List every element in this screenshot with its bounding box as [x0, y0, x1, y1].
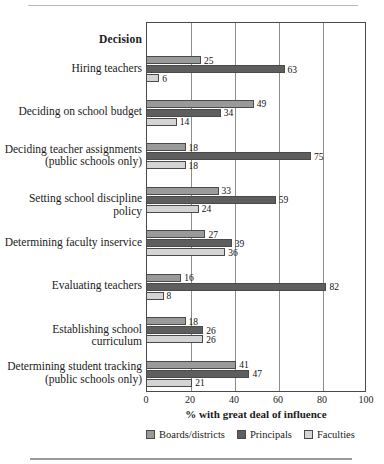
x-tick-label: 60 [263, 394, 293, 405]
legend-item: Principals [237, 429, 292, 440]
bar-value-label: 82 [329, 283, 339, 293]
bar-value-label: 24 [202, 205, 212, 215]
category-label-line1: Deciding on school budget [18, 105, 142, 117]
category-label: Evaluating teachers [0, 279, 142, 292]
bar-value-label: 8 [167, 292, 172, 302]
bar [146, 161, 186, 169]
chart-figure: Decision Hiring teachersDeciding on scho… [0, 0, 384, 464]
bar [146, 274, 181, 282]
category-label: Deciding on school budget [0, 105, 142, 118]
bar [146, 152, 311, 160]
category-axis-header: Decision [0, 33, 142, 45]
category-label-line1: Determining student tracking [7, 360, 142, 372]
bar-value-label: 59 [279, 196, 289, 206]
category-label: Determining student tracking(public scho… [0, 360, 142, 385]
bar [146, 283, 326, 291]
bar [146, 118, 177, 126]
bar [146, 205, 199, 213]
category-label-line1: Determining faculty inservice [5, 236, 142, 248]
bar-value-label: 6 [162, 75, 167, 85]
bar-value-label: 63 [288, 66, 298, 76]
bar [146, 361, 236, 369]
legend-label: Boards/districts [159, 429, 225, 440]
bar-value-label: 26 [206, 336, 216, 346]
x-tick-label: 20 [175, 394, 205, 405]
x-tick-label: 80 [307, 394, 337, 405]
bar [146, 100, 254, 108]
bar-value-label: 36 [228, 249, 238, 259]
legend-item: Boards/districts [146, 429, 225, 440]
bar-value-label: 14 [180, 118, 190, 128]
bar-value-label: 34 [224, 109, 234, 119]
bar [146, 65, 285, 73]
category-label-line1: Setting school discipline policy [29, 192, 142, 217]
legend-swatch [237, 430, 246, 439]
x-tick-label: 100 [351, 394, 381, 405]
bar [146, 143, 186, 151]
legend-swatch [146, 430, 155, 439]
bar [146, 248, 225, 256]
category-label: Deciding teacher assignments(public scho… [0, 143, 142, 168]
category-label-line2: (public schools only) [0, 155, 142, 168]
category-label: Hiring teachers [0, 62, 142, 75]
bar-value-label: 21 [195, 379, 205, 389]
category-label-line1: Evaluating teachers [52, 279, 142, 291]
bar [146, 370, 249, 378]
x-tick-label: 40 [219, 394, 249, 405]
gridline [235, 23, 236, 391]
bar [146, 379, 192, 387]
bar [146, 230, 205, 238]
category-label: Establishing school curriculum [0, 323, 142, 348]
category-label-line1: Establishing school curriculum [52, 323, 142, 348]
x-axis-title: % with great deal of influence [146, 408, 366, 420]
top-divider-rule [28, 5, 358, 6]
bottom-divider-rule [30, 458, 352, 460]
bar [146, 317, 186, 325]
category-label-line1: Hiring teachers [71, 62, 142, 74]
bar [146, 335, 203, 343]
category-label-line1: Deciding teacher assignments [5, 143, 142, 155]
bar [146, 187, 219, 195]
legend-swatch [304, 430, 313, 439]
bar [146, 109, 221, 117]
category-label: Setting school discipline policy [0, 192, 142, 217]
legend-label: Faculties [317, 429, 355, 440]
legend-item: Faculties [304, 429, 355, 440]
bar [146, 239, 232, 247]
bar-value-label: 18 [189, 162, 199, 172]
bar [146, 196, 276, 204]
legend-label: Principals [250, 429, 292, 440]
bar-value-label: 47 [252, 370, 262, 380]
gridline [279, 23, 280, 391]
x-tick-label: 0 [131, 394, 161, 405]
category-label: Determining faculty inservice [0, 236, 142, 249]
chart-legend: Boards/districtsPrincipalsFaculties [146, 429, 378, 440]
gridline [323, 23, 324, 391]
bar-value-label: 49 [257, 100, 267, 110]
bar [146, 292, 164, 300]
bar-value-label: 75 [314, 153, 324, 163]
category-label-line2: (public schools only) [0, 373, 142, 386]
bar [146, 74, 159, 82]
bar [146, 56, 201, 64]
bar [146, 326, 203, 334]
